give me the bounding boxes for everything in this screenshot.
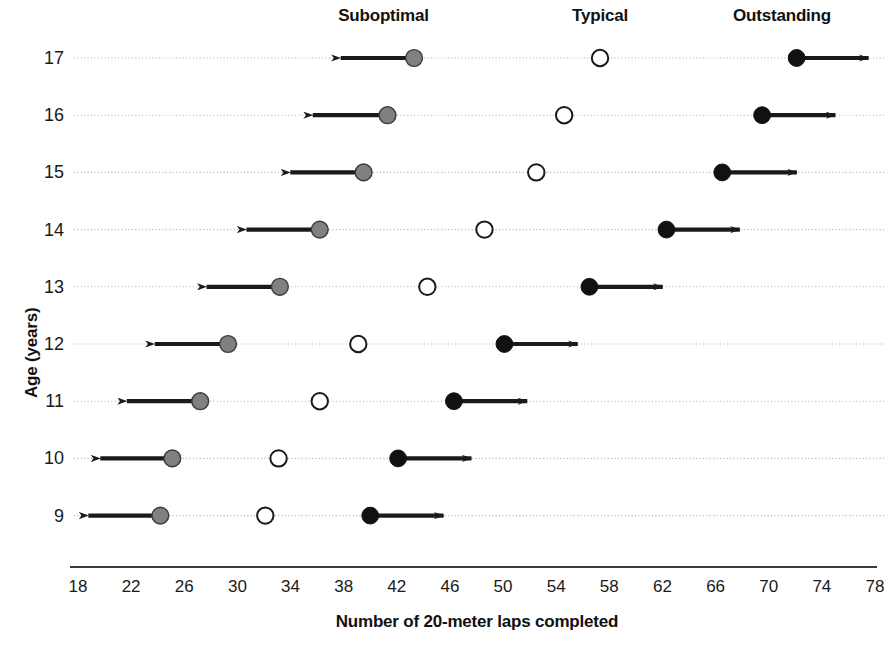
suboptimal-marker[interactable] xyxy=(379,107,396,124)
x-axis-tick-label: 54 xyxy=(547,577,566,597)
y-axis-tick-label: 14 xyxy=(28,219,64,240)
x-axis-tick-label: 26 xyxy=(175,577,194,597)
x-axis-tick-label: 58 xyxy=(600,577,619,597)
x-axis-tick-label: 38 xyxy=(334,577,353,597)
x-axis-tick-label: 34 xyxy=(281,577,300,597)
outstanding-marker[interactable] xyxy=(581,278,598,295)
data-row xyxy=(100,450,471,467)
typical-marker[interactable] xyxy=(419,279,435,295)
chart-container: SuboptimalTypicalOutstanding 17161514131… xyxy=(0,0,894,646)
data-row xyxy=(155,336,578,353)
outstanding-marker[interactable] xyxy=(788,50,805,67)
y-axis-tick-label: 16 xyxy=(28,105,64,126)
outstanding-marker[interactable] xyxy=(362,507,379,524)
x-axis-tick-label: 18 xyxy=(69,577,88,597)
typical-marker[interactable] xyxy=(270,450,286,466)
y-axis-tick-label: 17 xyxy=(28,48,64,69)
x-axis-tick-label: 50 xyxy=(494,577,513,597)
x-axis-tick-label: 62 xyxy=(653,577,672,597)
x-axis-tick-label: 46 xyxy=(440,577,459,597)
data-row xyxy=(341,50,869,67)
data-row xyxy=(290,164,797,181)
typical-marker[interactable] xyxy=(592,50,608,66)
y-axis-tick-label: 9 xyxy=(28,505,64,526)
suboptimal-marker[interactable] xyxy=(152,507,169,524)
outstanding-marker[interactable] xyxy=(446,393,463,410)
y-axis-tick-label: 13 xyxy=(28,276,64,297)
typical-marker[interactable] xyxy=(476,221,492,237)
typical-marker[interactable] xyxy=(556,107,572,123)
band-label-outstanding: Outstanding xyxy=(733,6,831,26)
chart-plot-area xyxy=(0,0,894,646)
band-label-suboptimal: Suboptimal xyxy=(338,6,429,26)
outstanding-marker[interactable] xyxy=(658,221,675,238)
data-row xyxy=(88,507,443,524)
suboptimal-marker[interactable] xyxy=(272,278,289,295)
suboptimal-marker[interactable] xyxy=(164,450,181,467)
data-row xyxy=(207,278,663,295)
y-axis-tick-label: 15 xyxy=(28,162,64,183)
suboptimal-marker[interactable] xyxy=(406,50,423,67)
outstanding-marker[interactable] xyxy=(390,450,407,467)
typical-marker[interactable] xyxy=(528,164,544,180)
x-axis-tick-label: 30 xyxy=(228,577,247,597)
band-label-typical: Typical xyxy=(572,6,628,26)
data-row xyxy=(127,393,527,410)
x-axis-title: Number of 20-meter laps completed xyxy=(336,612,618,632)
outstanding-marker[interactable] xyxy=(754,107,771,124)
data-row xyxy=(246,221,739,238)
outstanding-marker[interactable] xyxy=(496,336,513,353)
suboptimal-marker[interactable] xyxy=(355,164,372,181)
x-axis-tick-label: 22 xyxy=(122,577,141,597)
x-axis-tick-label: 42 xyxy=(387,577,406,597)
outstanding-marker[interactable] xyxy=(714,164,731,181)
suboptimal-marker[interactable] xyxy=(192,393,209,410)
y-axis-tick-label: 10 xyxy=(28,448,64,469)
typical-marker[interactable] xyxy=(312,393,328,409)
typical-marker[interactable] xyxy=(257,507,273,523)
x-axis-tick-label: 78 xyxy=(866,577,885,597)
y-axis-title: Age (years) xyxy=(22,308,42,398)
x-axis-tick-label: 74 xyxy=(812,577,831,597)
typical-marker[interactable] xyxy=(350,336,366,352)
x-axis-tick-label: 70 xyxy=(759,577,778,597)
x-axis-tick-label: 66 xyxy=(706,577,725,597)
suboptimal-marker[interactable] xyxy=(311,221,328,238)
suboptimal-marker[interactable] xyxy=(220,336,237,353)
